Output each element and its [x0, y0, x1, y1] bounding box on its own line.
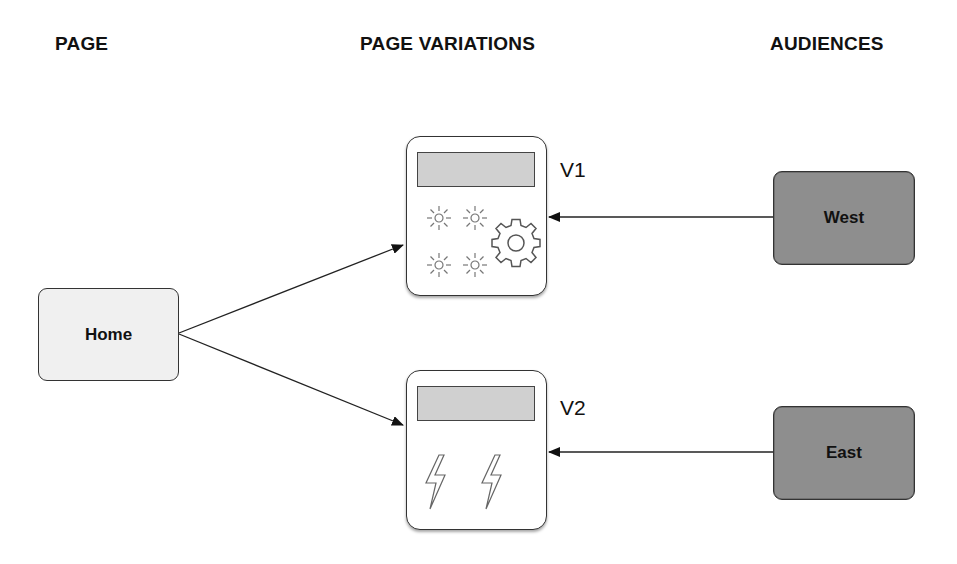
variation-label-v2: V2	[560, 396, 586, 420]
v2-icons	[407, 371, 548, 531]
sun-icon	[463, 206, 487, 230]
page-node-label: Home	[85, 325, 132, 345]
lightning-icon	[426, 455, 445, 509]
audience-label: East	[826, 443, 862, 463]
variation-label-v1: V1	[560, 158, 586, 182]
sun-icon	[427, 253, 451, 277]
variation-card-v2	[406, 370, 547, 530]
audience-node-east: East	[773, 406, 915, 500]
audience-node-west: West	[773, 171, 915, 265]
audience-label: West	[824, 208, 864, 228]
page-node-home: Home	[38, 288, 179, 381]
arrow-home-to-v2	[179, 334, 403, 425]
v1-icons	[407, 137, 548, 297]
arrow-home-to-v1	[179, 245, 403, 333]
gear-icon	[492, 220, 540, 267]
sun-icon	[463, 253, 487, 277]
lightning-icon	[482, 455, 501, 509]
sun-icon	[427, 206, 451, 230]
variation-card-v1	[406, 136, 547, 296]
